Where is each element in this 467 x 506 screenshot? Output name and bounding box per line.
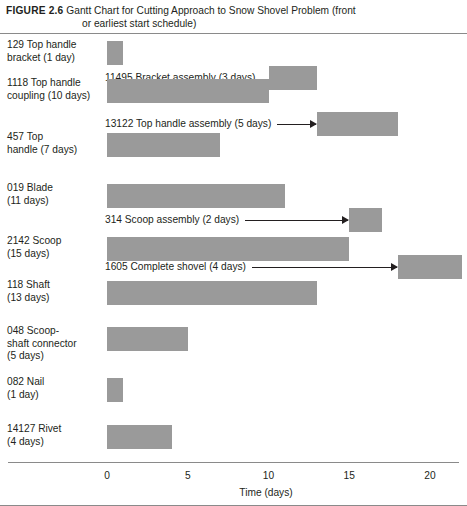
figure-caption-line2: or earliest start schedule)	[82, 17, 461, 30]
figure-caption-line1: Gantt Chart for Cutting Approach to Snow…	[66, 5, 355, 16]
time-axis-line	[8, 462, 459, 463]
gantt-bar	[107, 133, 220, 157]
gantt-bar	[107, 378, 123, 402]
gantt-bar	[107, 327, 188, 351]
task-label: 118 Shaft (13 days)	[7, 279, 50, 304]
figure-gantt-chart: FIGURE 2.6 Gantt Chart for Cutting Appro…	[0, 0, 467, 506]
task-label: 14127 Rivet (4 days)	[7, 423, 61, 448]
gantt-bar	[107, 425, 172, 449]
axis-tick-label: 20	[424, 470, 435, 481]
connector-arrow	[252, 267, 397, 268]
gantt-plot-area: 129 Top handle bracket (1 day)11495 Brac…	[0, 33, 467, 473]
figure-number: FIGURE 2.6	[6, 5, 63, 16]
inline-task-label: 13122 Top handle assembly (5 days)	[105, 118, 271, 130]
task-label: 048 Scoop- shaft connector (5 days)	[7, 325, 77, 363]
gantt-bar	[317, 112, 398, 136]
inline-task-label: 314 Scoop assembly (2 days)	[105, 214, 239, 226]
axis-tick-label: 5	[185, 470, 191, 481]
gantt-bar	[269, 66, 317, 90]
task-label: 457 Top handle (7 days)	[7, 131, 77, 156]
gantt-bar	[398, 255, 463, 279]
gantt-bar	[107, 184, 285, 208]
connector-arrow	[277, 124, 316, 125]
task-label: 1118 Top handle coupling (10 days)	[7, 77, 90, 102]
gantt-bar	[349, 208, 381, 232]
gantt-bar	[107, 237, 349, 261]
connector-arrow	[245, 220, 348, 221]
task-label: 2142 Scoop (15 days)	[7, 235, 61, 260]
gantt-bar	[107, 79, 269, 103]
gantt-bar	[107, 41, 123, 65]
axis-tick-label: 0	[104, 470, 110, 481]
gantt-bar	[107, 281, 317, 305]
figure-caption: FIGURE 2.6 Gantt Chart for Cutting Appro…	[6, 4, 461, 30]
axis-tick-label: 15	[344, 470, 355, 481]
axis-title-time: Time (days)	[239, 487, 292, 498]
task-label: 019 Blade (11 days)	[7, 182, 53, 207]
axis-tick-label: 10	[263, 470, 274, 481]
task-label: 082 Nail (1 day)	[7, 376, 44, 401]
inline-task-label: 1605 Complete shovel (4 days)	[105, 261, 246, 273]
task-label: 129 Top handle bracket (1 day)	[7, 39, 77, 64]
